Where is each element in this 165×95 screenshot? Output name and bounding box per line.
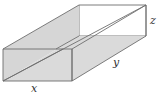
box-diagram: x y z <box>0 0 165 95</box>
label-y: y <box>112 56 120 69</box>
label-z: z <box>149 14 156 27</box>
inner-back-wall <box>79 5 146 36</box>
label-x: x <box>31 82 38 95</box>
